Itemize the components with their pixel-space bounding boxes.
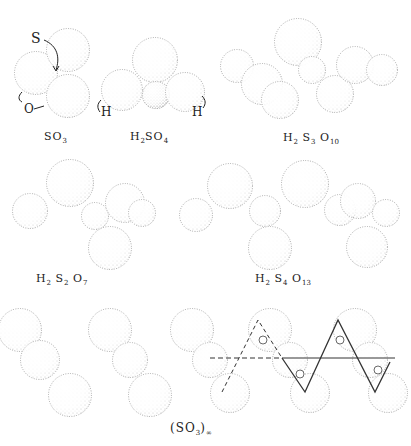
formula-text: H (130, 130, 141, 143)
atom-sphere (12, 193, 48, 229)
atom-sphere (248, 226, 292, 270)
formula-text: O (288, 272, 303, 285)
atom-sphere (128, 199, 156, 227)
hydrogen-atom-label-left: H (101, 105, 111, 119)
atom-sphere (207, 163, 253, 209)
atom-sphere (81, 202, 109, 230)
atom-sphere (210, 373, 250, 413)
atom-sphere (48, 373, 92, 417)
formula-h2s2o7: H2 S2 O7 (36, 272, 88, 287)
formula-text: S (270, 272, 283, 285)
formula-subscript: 4 (164, 137, 168, 145)
atom-sphere (281, 160, 329, 208)
formula-subscript: 13 (302, 279, 311, 287)
formula-h2s3o10: H2 S3 O10 (283, 131, 339, 146)
atom-sphere (112, 342, 148, 378)
sulfur-position-marker (296, 370, 304, 378)
atom-sphere (346, 226, 388, 268)
atom-sphere (179, 198, 213, 232)
atom-sphere (366, 54, 398, 86)
oxygen-atom-sphere (46, 74, 90, 118)
formula-text: H (255, 272, 266, 285)
formula-subscript: 10 (330, 138, 339, 146)
atom-sphere (46, 159, 94, 207)
formula-so3: SO3 (44, 130, 67, 145)
sulfur-position-marker (259, 336, 267, 344)
atom-sphere (298, 56, 326, 84)
sulfur-atom-label: S (31, 30, 41, 46)
atom-sphere (249, 195, 281, 227)
atom-sphere (340, 183, 376, 219)
oxygen-atom-sphere (132, 37, 178, 83)
formula-text: SO (145, 130, 164, 143)
sulfur-position-marker (336, 336, 344, 344)
atom-sphere (20, 340, 60, 380)
formula-text: (SO (170, 421, 196, 435)
molecular-models-illustration (0, 0, 411, 446)
sulfur-position-marker (374, 366, 382, 374)
formula-text: S (51, 272, 64, 285)
formula-h2so4: H2SO4 (130, 130, 168, 145)
formula-so3-polymer: (SO3)∞ (170, 421, 212, 437)
formula-text: H (283, 131, 294, 144)
atom-sphere (372, 199, 400, 227)
formula-subscript: ∞ (206, 429, 212, 437)
formula-text: H (36, 272, 47, 285)
formula-text: O (69, 272, 84, 285)
formula-subscript: 3 (63, 137, 67, 145)
atom-sphere (352, 342, 388, 378)
formula-text: O (316, 131, 331, 144)
atom-sphere (261, 81, 299, 119)
oxygen-atom-sphere (46, 28, 90, 72)
formula-subscript: 7 (83, 279, 87, 287)
atom-sphere (128, 373, 172, 417)
formula-h2s4o13: H2 S4 O13 (255, 272, 311, 287)
atom-sphere (88, 226, 132, 270)
formula-text: SO (44, 130, 63, 143)
atom-sphere (368, 373, 408, 413)
oxygen-atom-label: O (24, 102, 34, 116)
atom-sphere (192, 342, 228, 378)
formula-text: S (298, 131, 311, 144)
hydrogen-atom-label-right: H (192, 105, 202, 119)
